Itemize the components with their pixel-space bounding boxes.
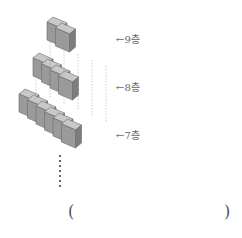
answer-open-paren: ( xyxy=(68,202,74,221)
continuation-dots xyxy=(59,155,61,187)
answer-blank[interactable] xyxy=(80,202,220,222)
cube xyxy=(59,71,79,100)
layer-label-8: ←8층 xyxy=(116,79,140,94)
answer-close-paren: ) xyxy=(224,202,230,221)
cube-layer-9층 xyxy=(47,17,76,52)
cube xyxy=(62,119,82,148)
layer-label-9: ←9층 xyxy=(116,31,140,46)
cube xyxy=(56,23,76,52)
cube-layer-8층 xyxy=(33,53,79,100)
layer-label-7: ←7층 xyxy=(116,127,140,142)
